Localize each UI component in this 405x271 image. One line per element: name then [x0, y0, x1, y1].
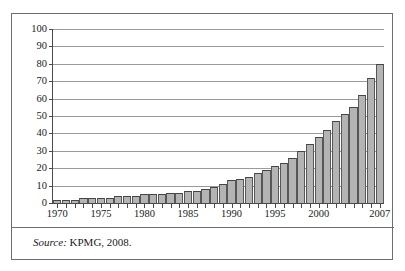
bar: [288, 158, 296, 203]
bar: [201, 189, 209, 203]
x-tick-mark: [127, 203, 128, 208]
y-tick-label: 50: [17, 111, 47, 122]
bar: [236, 179, 244, 203]
x-tick-label: 1995: [255, 209, 295, 220]
bar: [210, 187, 218, 203]
bar: [193, 191, 201, 203]
x-tick-label: 1985: [168, 209, 208, 220]
x-tick-mark: [75, 203, 76, 208]
bar: [376, 64, 384, 203]
x-tick-mark: [118, 203, 119, 208]
bar: [53, 200, 61, 203]
bar: [341, 114, 349, 203]
y-tick-label: 90: [17, 41, 47, 52]
bar: [166, 193, 174, 203]
y-tick-label: 10: [17, 180, 47, 191]
x-tick-label: 1980: [124, 209, 164, 220]
bar: [271, 166, 279, 203]
source-value: KPMG, 2008.: [67, 236, 132, 248]
bar: [349, 107, 357, 203]
bar: [332, 121, 340, 203]
x-tick-mark: [83, 203, 84, 208]
source-label: Source:: [33, 236, 67, 248]
y-tick-label: 80: [17, 59, 47, 70]
bar: [158, 194, 166, 203]
bar: [315, 137, 323, 203]
x-tick-mark: [362, 203, 363, 208]
bar: [297, 151, 305, 203]
chart-region: percentages 0102030405060708090100 19701…: [12, 14, 394, 227]
y-tick-label: 70: [17, 76, 47, 87]
bar-series: [53, 29, 384, 203]
bar: [184, 191, 192, 203]
x-tick-label: 1975: [81, 209, 121, 220]
x-tick-mark: [171, 203, 172, 208]
y-tick-label: 60: [17, 93, 47, 104]
bar: [62, 200, 70, 203]
bar: [280, 163, 288, 203]
bar: [88, 198, 96, 203]
bar: [358, 95, 366, 203]
x-tick-mark: [205, 203, 206, 208]
x-tick-mark: [162, 203, 163, 208]
y-tick-label: 40: [17, 128, 47, 139]
x-tick-mark: [345, 203, 346, 208]
y-tick-label: 100: [17, 24, 47, 35]
bar: [114, 196, 122, 203]
figure-frame: percentages 0102030405060708090100 19701…: [11, 13, 393, 260]
y-tick-mark: [49, 203, 53, 204]
bar: [106, 198, 114, 203]
bar: [306, 144, 314, 203]
bar: [149, 194, 157, 203]
x-tick-mark: [293, 203, 294, 208]
x-tick-mark: [249, 203, 250, 208]
bar: [140, 194, 148, 203]
bar: [227, 180, 235, 203]
bar: [367, 78, 375, 203]
bar: [323, 130, 331, 203]
y-tick-label: 20: [17, 163, 47, 174]
x-tick-label: 2007: [360, 209, 400, 220]
x-tick-mark: [258, 203, 259, 208]
y-tick-label: 0: [17, 198, 47, 209]
source-divider: [12, 227, 394, 228]
bar: [245, 177, 253, 203]
plot-area: 0102030405060708090100 19701975198019851…: [52, 29, 384, 204]
x-tick-label: 2000: [299, 209, 339, 220]
bar: [132, 196, 140, 203]
source-note: Source: KPMG, 2008.: [33, 236, 132, 248]
bar: [79, 198, 87, 203]
x-tick-mark: [301, 203, 302, 208]
x-tick-mark: [354, 203, 355, 208]
bar: [97, 198, 105, 203]
bar: [71, 200, 79, 203]
y-tick-label: 30: [17, 146, 47, 157]
x-tick-mark: [214, 203, 215, 208]
x-tick-mark: [336, 203, 337, 208]
bar: [219, 184, 227, 203]
x-tick-label: 1990: [212, 209, 252, 220]
bar: [262, 170, 270, 203]
bar: [175, 193, 183, 203]
bar: [254, 173, 262, 203]
bar: [123, 196, 131, 203]
x-tick-label: 1970: [37, 209, 77, 220]
